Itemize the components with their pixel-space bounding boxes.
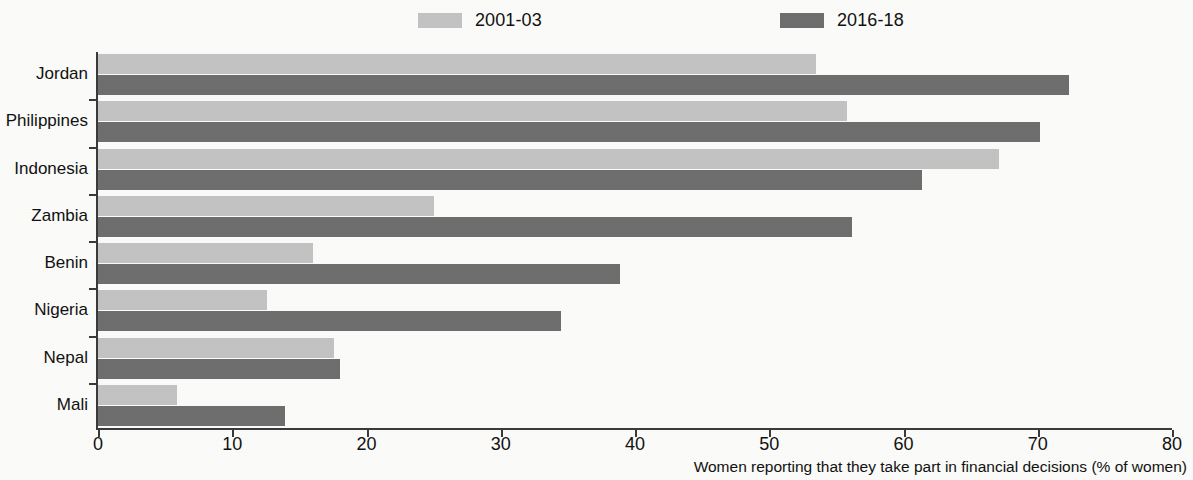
y-axis-tick <box>89 147 98 149</box>
y-axis-label-philippines: Philippines <box>6 111 88 131</box>
x-axis-tick-label-80: 80 <box>1162 434 1182 455</box>
y-axis-label-benin: Benin <box>45 253 88 273</box>
bar-group <box>98 338 1172 379</box>
y-axis-tick <box>89 336 98 338</box>
y-axis-label-nepal: Nepal <box>44 348 88 368</box>
bar-group <box>98 101 1172 142</box>
y-axis-label-mali: Mali <box>57 395 88 415</box>
x-axis-tick-label-50: 50 <box>759 434 779 455</box>
bar-group <box>98 196 1172 237</box>
x-axis-title: Women reporting that they take part in f… <box>694 458 1187 476</box>
x-axis-tick-label-10: 10 <box>222 434 242 455</box>
y-axis-tick <box>89 288 98 290</box>
y-axis-tick <box>89 241 98 243</box>
legend-swatch-2001-03 <box>418 13 462 28</box>
y-axis-label-zambia: Zambia <box>31 206 88 226</box>
bar-nigeria-2001-03[interactable] <box>98 290 267 310</box>
y-axis-tick <box>89 99 98 101</box>
legend-label-2001-03: 2001-03 <box>475 10 542 31</box>
bar-group <box>98 54 1172 95</box>
y-axis-label-jordan: Jordan <box>36 64 88 84</box>
x-axis-tick-label-30: 30 <box>491 434 511 455</box>
y-axis-tick <box>89 194 98 196</box>
bar-nepal-2016-18[interactable] <box>98 359 340 379</box>
bar-benin-2001-03[interactable] <box>98 243 313 263</box>
x-axis-tick-label-0: 0 <box>93 434 103 455</box>
y-axis-label-nigeria: Nigeria <box>34 300 88 320</box>
y-axis-label-indonesia: Indonesia <box>14 159 88 179</box>
bar-zambia-2001-03[interactable] <box>98 196 434 216</box>
bar-jordan-2016-18[interactable] <box>98 75 1069 95</box>
bar-benin-2016-18[interactable] <box>98 264 620 284</box>
bar-philippines-2001-03[interactable] <box>98 101 847 121</box>
x-axis-tick-label-40: 40 <box>625 434 645 455</box>
bar-mali-2016-18[interactable] <box>98 406 285 426</box>
y-axis-labels: JordanPhilippinesIndonesiaZambiaBeninNig… <box>0 52 88 430</box>
bar-nepal-2001-03[interactable] <box>98 338 334 358</box>
x-axis-tick-label-20: 20 <box>356 434 376 455</box>
bar-zambia-2016-18[interactable] <box>98 217 852 237</box>
legend-swatch-2016-18 <box>780 13 824 28</box>
bar-jordan-2001-03[interactable] <box>98 54 816 74</box>
bar-indonesia-2016-18[interactable] <box>98 170 922 190</box>
legend-item-2016-18[interactable]: 2016-18 <box>780 10 904 31</box>
legend-item-2001-03[interactable]: 2001-03 <box>418 10 542 31</box>
bar-mali-2001-03[interactable] <box>98 385 177 405</box>
chart-legend: 2001-03 2016-18 <box>0 0 1193 44</box>
bar-indonesia-2001-03[interactable] <box>98 149 999 169</box>
plot-area <box>98 52 1172 430</box>
bar-nigeria-2016-18[interactable] <box>98 311 561 331</box>
x-axis-labels: 01020304050607080 <box>0 434 1193 460</box>
legend-label-2016-18: 2016-18 <box>837 10 904 31</box>
x-axis-tick-label-60: 60 <box>893 434 913 455</box>
bar-group <box>98 385 1172 426</box>
x-axis-line <box>96 428 1172 430</box>
bar-group <box>98 290 1172 331</box>
y-axis-tick <box>89 383 98 385</box>
bar-philippines-2016-18[interactable] <box>98 122 1040 142</box>
bar-group <box>98 149 1172 190</box>
x-axis-tick-label-70: 70 <box>1028 434 1048 455</box>
bar-group <box>98 243 1172 284</box>
